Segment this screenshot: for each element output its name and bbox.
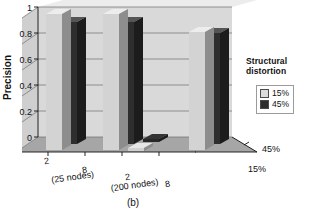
legend-title-line1: Structural — [246, 56, 320, 66]
y-tick-label-1: 1 — [27, 3, 32, 13]
legend-swatch-icon-45 — [260, 100, 269, 109]
bar-g2-15 — [103, 9, 128, 150]
y-tick-label-08: 0.8 — [19, 29, 32, 39]
depth-tick-label-15: 15% — [248, 164, 266, 174]
y-tick-label-06: 0.6 — [19, 55, 32, 65]
x-group-label-200-nodes: (200 nodes) — [110, 177, 159, 194]
legend-label-15: 15% — [272, 88, 289, 99]
figure-caption: (b) — [127, 197, 139, 208]
legend-frame: 15% 45% — [256, 85, 294, 114]
y-tick-label-04: 0.4 — [19, 81, 32, 91]
legend-title-line2: distortion — [246, 66, 320, 76]
x-group-label-25-nodes: (25 nodes) — [51, 169, 95, 185]
x-tick-label-1: 2 — [43, 156, 49, 167]
chart-container: 1 0.8 0.6 0.4 0.2 0 Precision — [0, 0, 322, 214]
bar-g4-15 — [189, 27, 214, 150]
bar-g1-15 — [46, 9, 71, 150]
legend-swatch-icon-15 — [260, 89, 269, 98]
legend-item-15[interactable]: 15% — [260, 88, 289, 99]
legend-title: Structural distortion — [246, 56, 320, 77]
y-tick-label-02: 0.2 — [19, 107, 32, 117]
legend-item-45[interactable]: 45% — [260, 99, 289, 110]
legend: Structural distortion 15% 45% — [246, 56, 320, 114]
legend-label-45: 45% — [272, 99, 289, 110]
depth-tick-label-45: 45% — [262, 144, 280, 154]
y-axis-title: Precision — [2, 55, 13, 100]
y-tick-label-0: 0 — [27, 133, 32, 143]
x-tick-label-4: 8 — [164, 179, 170, 190]
